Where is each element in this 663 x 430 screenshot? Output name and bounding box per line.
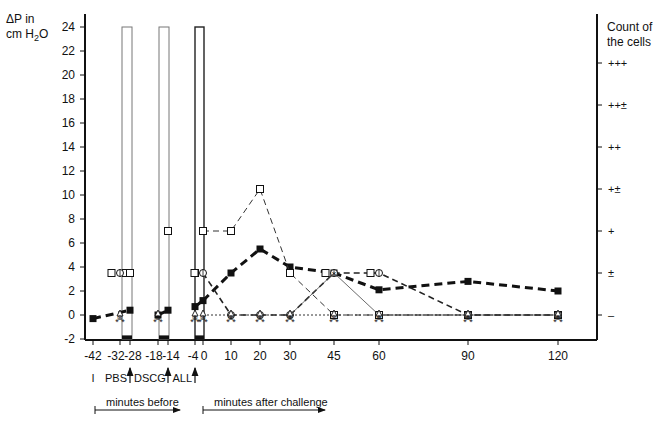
y-axis-right-label: Count of the cells xyxy=(607,20,652,50)
challenge-bar xyxy=(122,27,132,339)
x-tick-label: 30 xyxy=(283,349,297,363)
svg-text:⊗: ⊗ xyxy=(331,314,337,321)
right-label-line1: Count of xyxy=(607,20,652,35)
y-tick-label: 16 xyxy=(62,116,76,130)
svg-text:⊗: ⊗ xyxy=(257,314,263,321)
x-tick-label: -32 xyxy=(107,349,125,363)
x-tick-label: 10 xyxy=(224,349,238,363)
right-tick-label: + xyxy=(608,225,614,237)
svg-text:⊗: ⊗ xyxy=(555,314,561,321)
svg-text:⊗: ⊗ xyxy=(287,314,293,321)
marker-label-i: I xyxy=(91,372,94,384)
svg-text:x: x xyxy=(332,269,336,278)
y-tick-label: 6 xyxy=(68,236,75,250)
y-label-line2: cm H2O xyxy=(6,27,48,46)
x-tick-label: 90 xyxy=(461,349,475,363)
span-label-after: minutes after challenge xyxy=(214,396,328,408)
y-tick-label: 18 xyxy=(62,92,76,106)
axes: -2024681012141618202224–±++±++++±+++-42-… xyxy=(62,14,628,363)
svg-text:⊗: ⊗ xyxy=(465,314,471,321)
y-tick-label: 24 xyxy=(62,20,76,34)
right-label-line2: the cells xyxy=(607,35,652,50)
y-tick-label: 4 xyxy=(68,260,75,274)
x-tick-label: 20 xyxy=(253,349,267,363)
challenge-bars xyxy=(122,27,204,339)
right-tick-label: +± xyxy=(608,183,620,195)
x-tick-label: 60 xyxy=(372,349,386,363)
right-tick-label: – xyxy=(608,309,615,321)
svg-text:⊗: ⊗ xyxy=(200,314,206,321)
right-tick-label: ++ xyxy=(608,141,621,153)
right-tick-label: ± xyxy=(608,267,614,279)
x-tick-label: 120 xyxy=(548,349,568,363)
x-tick-label: -18 xyxy=(145,349,163,363)
marker-label-pbs: PBS xyxy=(105,372,127,384)
svg-text:⊗: ⊗ xyxy=(228,314,234,321)
y-tick-label: 10 xyxy=(62,188,76,202)
x-tick-label: -4 xyxy=(188,349,199,363)
svg-text:⊗: ⊗ xyxy=(117,314,123,321)
y-axis-left-label: ΔP in cm H2O xyxy=(6,12,48,46)
series-4: **⊗**⊗**⊗**⊗**⊗**⊗**⊗**⊗**⊗**⊗**⊗ xyxy=(115,310,563,327)
x-tick-label: 0 xyxy=(201,349,208,363)
svg-text:⊗: ⊗ xyxy=(192,314,198,321)
marker-label-all: ALL xyxy=(172,372,192,384)
x-tick-label: -28 xyxy=(124,349,142,363)
y-label-line1: ΔP in xyxy=(6,12,48,27)
y-tick-label: 12 xyxy=(62,164,76,178)
y-tick-label: -2 xyxy=(64,332,75,346)
y-tick-label: 8 xyxy=(68,212,75,226)
span-label-before: minutes before xyxy=(106,396,179,408)
x-tick-label: -42 xyxy=(84,349,102,363)
annotations: IPBSDSCGALLminutes beforeminutes after c… xyxy=(91,368,327,414)
y-tick-label: 20 xyxy=(62,68,76,82)
y-tick-label: 0 xyxy=(68,308,75,322)
x-tick-label: 45 xyxy=(327,349,341,363)
svg-text:⊗: ⊗ xyxy=(155,314,161,321)
right-tick-label: +++ xyxy=(608,57,627,69)
y-tick-label: 22 xyxy=(62,44,76,58)
x-tick-label: -14 xyxy=(162,349,180,363)
svg-text:⊗: ⊗ xyxy=(376,314,382,321)
chart-canvas: -2024681012141618202224–±++±++++±+++-42-… xyxy=(0,0,663,430)
challenge-bar xyxy=(159,27,169,339)
y-tick-label: 14 xyxy=(62,140,76,154)
challenge-bar xyxy=(195,27,204,339)
y-tick-label: 2 xyxy=(68,284,75,298)
right-tick-label: ++± xyxy=(608,99,627,111)
series-1 xyxy=(123,186,562,319)
marker-label-dscg: DSCG xyxy=(134,372,166,384)
